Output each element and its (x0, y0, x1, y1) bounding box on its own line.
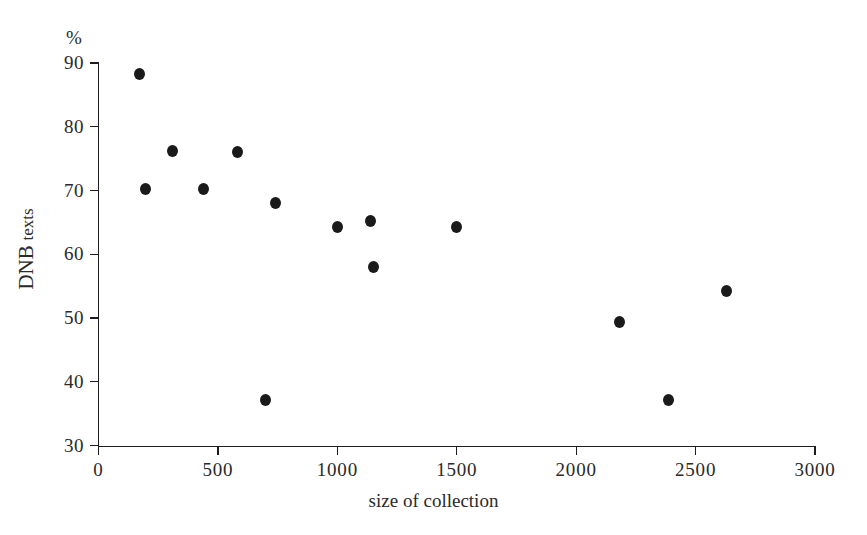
x-axis-tick (337, 446, 338, 455)
y-axis-tick-label-text: 70 (36, 181, 84, 200)
x-axis-tick (576, 446, 577, 455)
data-point (167, 145, 178, 157)
y-axis-tick (90, 62, 99, 63)
y-axis-tick-label-text: 40 (36, 372, 84, 391)
y-axis-tick-label-text: 50 (36, 308, 84, 327)
y-axis-tick (90, 254, 99, 255)
data-point (260, 394, 271, 406)
x-axis-tick-label: 1500 (436, 460, 477, 479)
y-axis-tick-label: 50 (20, 308, 84, 327)
x-axis-tick (98, 446, 99, 455)
x-axis-tick-label: 3000 (794, 460, 835, 479)
y-axis-tick-label: 70 (20, 181, 84, 200)
y-axis-line (98, 63, 99, 447)
data-point (232, 146, 243, 158)
y-axis-tick-label-text: 90 (36, 53, 84, 72)
x-axis-tick (814, 446, 815, 455)
y-axis-tick-label: 90 (20, 53, 84, 72)
y-axis-title-sub: texts (18, 208, 37, 240)
y-axis-tick-label: 40 (20, 372, 84, 391)
y-axis-unit-label: % (66, 28, 82, 47)
data-point (332, 221, 343, 233)
y-axis-tick-label: 60 (20, 244, 84, 263)
data-point (134, 68, 145, 80)
y-axis-tick-label-text: 60 (36, 244, 84, 263)
x-axis-title: size of collection (0, 490, 867, 511)
y-axis-tick-label-text: 80 (36, 117, 84, 136)
x-axis-tick-label: 2500 (675, 460, 716, 479)
y-axis-tick (90, 381, 99, 382)
y-axis-tick (90, 317, 99, 318)
y-axis-tick (90, 190, 99, 191)
scatter-chart: % DNB texts 3040506070809005001000150020… (0, 0, 867, 535)
x-axis-tick-label: 2000 (556, 460, 597, 479)
x-axis-tick-label: 500 (202, 460, 233, 479)
y-axis-tick-label-text: 30 (36, 436, 84, 455)
y-axis-tick-label: 80 (20, 117, 84, 136)
data-point (451, 221, 462, 233)
x-axis-tick-label: 1000 (317, 460, 358, 479)
data-point (368, 261, 379, 273)
data-point (365, 215, 376, 227)
y-axis-tick (90, 126, 99, 127)
x-axis-tick (695, 446, 696, 455)
data-point (663, 394, 674, 406)
x-axis-tick (456, 446, 457, 455)
data-point (198, 183, 209, 195)
data-point (140, 183, 151, 195)
x-axis-tick-label: 0 (93, 460, 103, 479)
y-axis-tick-label: 30 (20, 436, 84, 455)
data-point (614, 316, 625, 328)
x-axis-tick (217, 446, 218, 455)
data-point (270, 197, 281, 209)
plot-area: % DNB texts 3040506070809005001000150020… (0, 0, 867, 535)
data-point (721, 285, 732, 297)
